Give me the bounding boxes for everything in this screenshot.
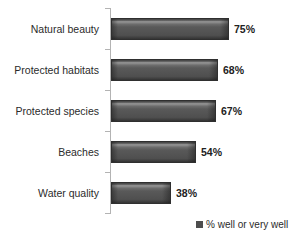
bar-row: Protected species 67% [0,99,289,123]
bar-chart: Natural beauty 75% Protected habitats 68… [0,0,289,237]
axis-tick [105,213,110,214]
value-label: 75% [234,17,255,41]
bar-row: Water quality 38% [0,181,289,205]
value-label: 54% [201,140,222,164]
bar-row: Beaches 54% [0,140,289,164]
value-label: 38% [176,181,197,205]
bar[interactable] [111,182,171,204]
axis-tick [105,172,110,173]
category-label: Beaches [4,140,99,164]
bar-container [111,18,229,40]
plot-area: Natural beauty 75% Protected habitats 68… [0,0,289,237]
bar-row: Protected habitats 68% [0,58,289,82]
axis-tick [105,49,110,50]
bar-row: Natural beauty 75% [0,17,289,41]
category-label: Water quality [4,181,99,205]
axis-tick [105,8,110,9]
value-label: 67% [221,99,242,123]
bar-container [111,141,196,163]
bar[interactable] [111,141,196,163]
bar-container [111,182,171,204]
legend-swatch-icon [196,221,203,228]
category-label: Protected habitats [4,58,99,82]
category-label: Natural beauty [4,17,99,41]
bar-container [111,59,218,81]
chart-legend[interactable]: % well or very well [196,217,288,231]
category-label: Protected species [4,99,99,123]
bar[interactable] [111,100,216,122]
bar-container [111,100,216,122]
bar[interactable] [111,59,218,81]
axis-tick [105,90,110,91]
value-label: 68% [223,58,244,82]
bar[interactable] [111,18,229,40]
legend-label: % well or very well [206,219,288,230]
axis-tick [105,131,110,132]
